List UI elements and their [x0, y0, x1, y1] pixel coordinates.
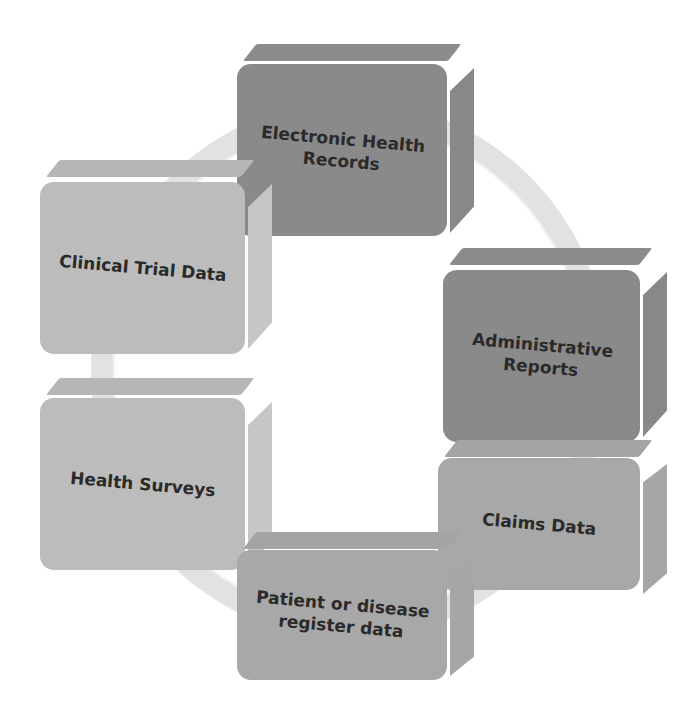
node-top-face	[449, 248, 652, 265]
node-front-face: Health Surveys	[40, 398, 245, 570]
node-label: Clinical Trial Data	[58, 250, 227, 287]
node-side-face	[450, 556, 474, 676]
node-front-face: Patient or disease register data	[237, 550, 447, 680]
node-side-face	[248, 184, 272, 349]
node-side-face	[450, 68, 474, 233]
node-patient-disease-register-data: Patient or disease register data	[237, 532, 477, 692]
node-label: Electronic Health Records	[258, 121, 426, 179]
node-label: Patient or disease register data	[253, 586, 430, 645]
node-top-face	[243, 44, 461, 61]
node-front-face: Clinical Trial Data	[40, 182, 245, 354]
node-top-face	[444, 440, 652, 457]
node-side-face	[643, 464, 667, 594]
node-label: Health Surveys	[69, 467, 216, 502]
node-side-face	[643, 272, 667, 437]
node-top-face	[243, 532, 461, 549]
node-label: Administrative Reports	[469, 328, 614, 384]
node-administrative-reports: Administrative Reports	[443, 248, 673, 448]
node-top-face	[46, 378, 254, 395]
node-clinical-trial-data: Clinical Trial Data	[40, 160, 275, 360]
node-label: Claims Data	[481, 508, 597, 540]
node-top-face	[46, 160, 254, 177]
node-front-face: Administrative Reports	[443, 270, 640, 442]
